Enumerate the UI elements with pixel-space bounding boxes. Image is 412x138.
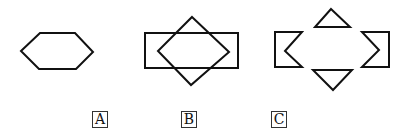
diamond-shape [158,17,229,85]
top-triangle-shape [315,9,350,27]
option-b-label: B [181,111,197,128]
option-a-figure [21,33,93,69]
option-a-label: A [92,111,108,128]
option-b-figure [145,17,238,85]
hexagon-shape [21,33,93,69]
left-bracket-shape [275,32,302,67]
figure-canvas [0,0,412,138]
bottom-triangle-shape [313,70,352,90]
option-c-label: C [271,111,287,128]
option-c-figure [275,9,389,90]
right-bracket-shape [362,32,389,67]
